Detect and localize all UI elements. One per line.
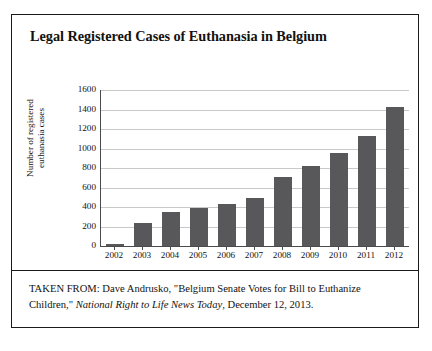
y-axis-tick-label: 600 <box>64 183 96 192</box>
figure-frame: Legal Registered Cases of Euthanasia in … <box>11 14 419 328</box>
bar-slot <box>381 90 409 246</box>
caption-line-3: December 12, 2013. <box>227 299 313 310</box>
bar-slot <box>269 90 297 246</box>
y-axis-tick-label: 1600 <box>64 85 96 94</box>
bar-2004 <box>162 212 180 246</box>
bar-slot <box>353 90 381 246</box>
bar-slot <box>297 90 325 246</box>
bar-2010 <box>330 153 348 246</box>
x-axis-tick-labels: 2002200320042005200620072008200920102011… <box>100 251 408 260</box>
x-axis-tick-label: 2004 <box>156 251 184 260</box>
caption-line-1: TAKEN FROM: Dave Andrusko, "Belgium Sena… <box>29 283 316 294</box>
x-axis-tick-label: 2003 <box>128 251 156 260</box>
y-axis-tick-label: 200 <box>64 222 96 231</box>
bar-slot <box>325 90 353 246</box>
bar-2005 <box>190 208 208 247</box>
x-axis-tick-label: 2008 <box>268 251 296 260</box>
caption-divider <box>12 270 418 271</box>
y-axis-tick-label: 800 <box>64 163 96 172</box>
y-axis-tick-label: 0 <box>64 241 96 250</box>
caption-line-2-suffix: , <box>222 299 225 310</box>
bar-slot <box>157 90 185 246</box>
y-axis-tick-label: 400 <box>64 202 96 211</box>
bar-2007 <box>246 198 264 246</box>
y-axis-tick-labels: 02004006008001000120014001600 <box>64 63 96 249</box>
y-axis-title: Number of registered euthanasia cases <box>25 75 55 201</box>
bar-2008 <box>274 177 292 246</box>
x-axis-tick-label: 2006 <box>212 251 240 260</box>
x-axis-tick-label: 2012 <box>380 251 408 260</box>
y-axis-tick-label: 1000 <box>64 144 96 153</box>
bar-2012 <box>386 107 404 246</box>
bar-2003 <box>134 223 152 246</box>
y-axis-title-line1: Number of registered <box>25 75 36 201</box>
bar-slot <box>129 90 157 246</box>
x-axis-tick-label: 2010 <box>324 251 352 260</box>
chart-area: Number of registered euthanasia cases 02… <box>12 63 418 269</box>
caption-source-title: National Right to Life News Today <box>76 299 222 310</box>
x-axis-tick-label: 2009 <box>296 251 324 260</box>
bar-2011 <box>358 136 376 246</box>
y-axis-title-line2: euthanasia cases <box>36 75 47 201</box>
chart-title: Legal Registered Cases of Euthanasia in … <box>30 29 390 45</box>
bar-slot <box>101 90 129 246</box>
x-axis-tick-label: 2002 <box>100 251 128 260</box>
x-axis-tick-label: 2005 <box>184 251 212 260</box>
bar-series <box>101 90 409 246</box>
y-axis-tick-label: 1200 <box>64 124 96 133</box>
figure-caption: TAKEN FROM: Dave Andrusko, "Belgium Sena… <box>29 281 401 313</box>
plot-area <box>100 90 409 247</box>
bar-slot <box>241 90 269 246</box>
x-axis-tick-label: 2011 <box>352 251 380 260</box>
bar-2009 <box>302 166 320 246</box>
x-axis-tick-label: 2007 <box>240 251 268 260</box>
bar-slot <box>185 90 213 246</box>
bar-2006 <box>218 204 236 246</box>
y-axis-tick-label: 1400 <box>64 105 96 114</box>
bar-slot <box>213 90 241 246</box>
